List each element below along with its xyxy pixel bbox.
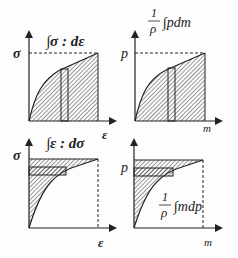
panel-bottom-right: 1 ρ ∫mdp p m (120, 140, 221, 248)
x-axis-label: ε (98, 235, 104, 250)
diagram-canvas: ∫σ : dε σ ε 1 ρ ∫pdm p m ∫ε : dσ σ ε (0, 0, 238, 258)
x-axis-label: m (203, 122, 211, 134)
y-axis-label: σ (13, 148, 21, 163)
area-under-curve (135, 53, 205, 121)
increment-strip (134, 168, 173, 176)
increment-strip (29, 167, 66, 175)
fraction-denominator: ρ (160, 205, 167, 220)
fraction-numerator: 1 (151, 6, 157, 20)
fraction-numerator: 1 (162, 190, 168, 204)
panel-top-right: 1 ρ ∫pdm p m (120, 6, 221, 134)
integral-label: ∫pdm (162, 15, 191, 31)
y-axis-label: p (120, 160, 128, 175)
fraction-denominator: ρ (149, 21, 156, 36)
x-axis-label: ε (102, 127, 108, 142)
integral-label: ∫mdp (173, 199, 202, 215)
y-axis-label: p (120, 46, 128, 61)
panel-top-left: ∫σ : dε σ ε (13, 32, 115, 142)
panel-bottom-left: ∫ε : dσ σ ε (13, 135, 115, 250)
area-under-curve (29, 53, 98, 121)
x-axis-label: m (204, 236, 212, 248)
integral-label: ∫σ : dε (45, 33, 85, 50)
y-axis-label: σ (13, 46, 21, 61)
integral-label: ∫ε : dσ (45, 135, 85, 152)
